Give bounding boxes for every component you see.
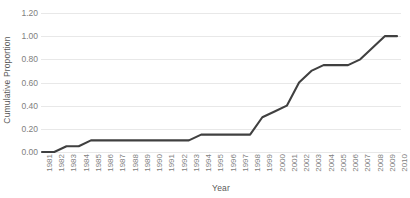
x-tick-label: 2010 bbox=[400, 154, 409, 172]
x-tick-label: 2006 bbox=[351, 154, 360, 172]
y-axis-title: Cumulative Proportion bbox=[0, 0, 14, 160]
x-tick-label: 2005 bbox=[339, 154, 348, 172]
x-tick-label: 1987 bbox=[118, 154, 127, 172]
x-tick-label: 2009 bbox=[388, 154, 397, 172]
y-tick-label: 1.20 bbox=[21, 8, 38, 18]
x-tick-label: 1996 bbox=[229, 154, 238, 172]
y-tick-label: 0.60 bbox=[21, 78, 38, 88]
y-tick-label: 0.40 bbox=[21, 101, 38, 111]
x-tick-label: 1999 bbox=[265, 154, 274, 172]
series-line bbox=[41, 13, 401, 152]
x-tick-label: 1995 bbox=[216, 154, 225, 172]
x-tick-label: 1992 bbox=[180, 154, 189, 172]
x-tick-label: 1981 bbox=[45, 154, 54, 172]
x-tick-label: 1988 bbox=[131, 154, 140, 172]
cumulative-proportion-polyline bbox=[42, 36, 397, 152]
x-tick-label: 2007 bbox=[363, 154, 372, 172]
x-tick-label: 2003 bbox=[314, 154, 323, 172]
y-tick-label: 0.20 bbox=[21, 124, 38, 134]
x-tick-label: 1998 bbox=[253, 154, 262, 172]
x-tick-label: 2000 bbox=[278, 154, 287, 172]
x-tick-label: 1994 bbox=[204, 154, 213, 172]
x-tick-label: 2002 bbox=[302, 154, 311, 172]
y-axis-title-label: Cumulative Proportion bbox=[2, 36, 12, 123]
x-tick-label: 1993 bbox=[192, 154, 201, 172]
cumulative-proportion-line-chart: Cumulative Proportion 1.201.000.800.600.… bbox=[0, 0, 410, 198]
y-tick-label: 1.00 bbox=[21, 31, 38, 41]
y-tick-label: 0.80 bbox=[21, 54, 38, 64]
x-tick-label: 1990 bbox=[155, 154, 164, 172]
x-axis-tick-labels: 1981198219831984198519861987198819891990… bbox=[41, 154, 401, 182]
x-tick-label: 1989 bbox=[143, 154, 152, 172]
x-tick-label: 1991 bbox=[167, 154, 176, 172]
x-tick-label: 1984 bbox=[82, 154, 91, 172]
y-axis-tick-labels: 1.201.000.800.600.400.200.00 bbox=[14, 0, 41, 160]
x-axis-title: Year bbox=[41, 183, 401, 193]
x-tick-label: 2004 bbox=[327, 154, 336, 172]
x-tick-label: 1982 bbox=[57, 154, 66, 172]
x-tick-label: 1985 bbox=[94, 154, 103, 172]
x-tick-label: 2008 bbox=[376, 154, 385, 172]
x-tick-label: 1986 bbox=[106, 154, 115, 172]
plot-area bbox=[41, 13, 401, 152]
x-tick-label: 1983 bbox=[69, 154, 78, 172]
x-tick-label: 1997 bbox=[241, 154, 250, 172]
x-tick-label: 2001 bbox=[290, 154, 299, 172]
y-tick-label: 0.00 bbox=[21, 147, 38, 157]
